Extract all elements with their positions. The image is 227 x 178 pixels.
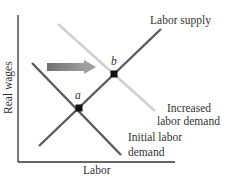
x-axis-label: Labor <box>83 164 110 177</box>
y-axis-label: Real wages <box>2 61 15 114</box>
labor-market-diagram: Labor supply Increased labor demand Init… <box>0 0 227 178</box>
equilibrium-point-a <box>76 105 83 112</box>
labor-supply-label: Labor supply <box>150 14 211 27</box>
increased-demand-label-line2: labor demand <box>157 115 220 128</box>
initial-demand-label-line2: demand <box>128 146 164 159</box>
point-b-label: b <box>111 55 117 68</box>
equilibrium-point-b <box>111 71 118 78</box>
increased-demand-label-line1: Increased <box>167 102 211 115</box>
demand-shift-arrow-icon <box>47 60 96 74</box>
point-a-label: a <box>75 89 81 102</box>
initial-demand-label-line1: Initial labor <box>128 131 182 144</box>
